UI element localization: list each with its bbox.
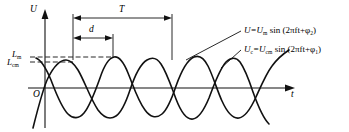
level-label-Lcm-sub: cm — [12, 62, 19, 68]
callout-wave-uc-tail: sin (2πft+φ — [272, 44, 315, 54]
callout-wave-uc-close: ) — [318, 44, 321, 54]
callout-wave-uc: Uc=Ucm sin (2πft+φ1) — [244, 45, 321, 54]
dimension-label-T: T — [119, 5, 124, 15]
callout-wave-u-tail: sin (2πft+φ — [267, 25, 310, 35]
callout-wave-uc-prefix: U — [244, 44, 251, 54]
callout-wave-u-amp-sub: m — [263, 30, 267, 36]
leader-line-wave-uc — [221, 50, 241, 68]
y-axis-label: U — [30, 5, 37, 15]
callout-wave-u: U=Um sin (2πft+φ2) — [244, 26, 316, 35]
callout-wave-uc-eq: =U — [253, 44, 266, 54]
callout-wave-u-phase-sub: 2 — [310, 30, 313, 36]
annotation-layer — [0, 0, 349, 132]
origin-label: O — [33, 90, 40, 100]
callout-wave-u-close: ) — [313, 25, 316, 35]
callout-wave-uc-phase-sub: 1 — [315, 49, 318, 55]
level-label-Lcm: Lcm — [7, 58, 19, 67]
x-axis-label: t — [291, 90, 294, 100]
dimension-arrow-T — [73, 15, 172, 20]
callout-wave-uc-amp-sub: cm — [266, 49, 273, 55]
figure-canvas: U t O T d Lm Lcm U=Um sin (2πft+φ2) Uc=U… — [0, 0, 349, 132]
dimension-arrow-d — [73, 35, 113, 40]
dimension-label-d: d — [89, 25, 94, 35]
callout-wave-uc-prefix-sub: c — [251, 49, 253, 55]
leader-line-wave-u — [186, 31, 241, 60]
callout-wave-u-eq: =U — [251, 25, 264, 35]
